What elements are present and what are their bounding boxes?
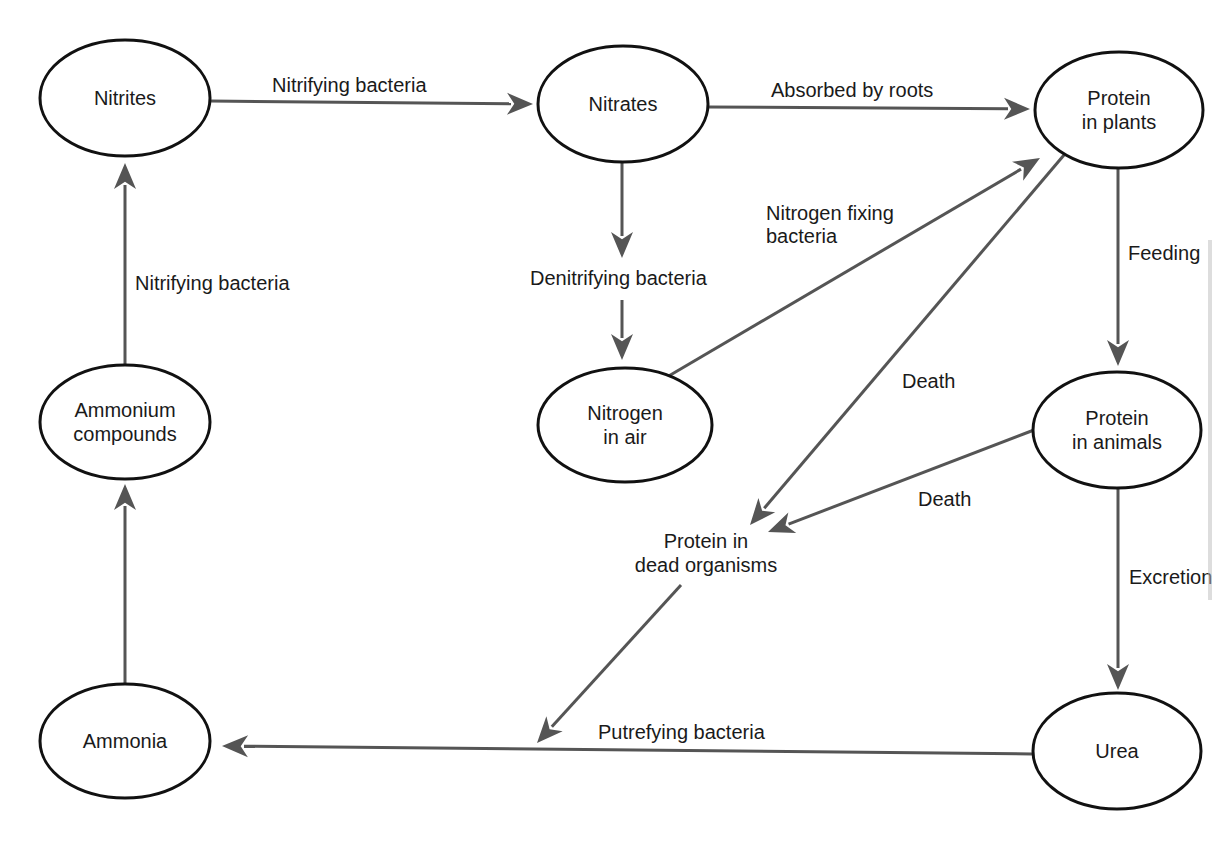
edge-label: Feeding [1128, 242, 1200, 264]
arrow-shaft [244, 746, 1032, 754]
node-nitrites: Nitrites [40, 40, 210, 156]
arrowhead-icon [750, 498, 775, 525]
edge-dead-to-ammonia-path [537, 585, 681, 743]
node-urea: Urea [1033, 693, 1201, 809]
edge-protein-in-animals-to-dead: Death [768, 430, 1034, 533]
edge-ammonia-to-ammonium [114, 484, 136, 685]
node-ellipse [40, 365, 210, 479]
node-label: in plants [1082, 111, 1157, 133]
node-label: in animals [1072, 431, 1162, 453]
edge-urea-to-ammonia: Putrefying bacteria [222, 721, 1032, 757]
edge-label: Death [918, 488, 971, 510]
node-label: Ammonia [83, 730, 168, 752]
edge-label: Nitrifying bacteria [135, 272, 290, 294]
edge-label-line2: bacteria [766, 225, 838, 247]
free-label-line: dead organisms [635, 554, 777, 576]
node-label: Urea [1095, 740, 1139, 762]
node-protein-in-plants: Proteinin plants [1035, 52, 1203, 168]
node-label: Ammonium [74, 399, 175, 421]
edge-ammonium-to-nitrites: Nitrifying bacteria [114, 163, 290, 364]
node-ammonia: Ammonia [40, 684, 210, 798]
arrow-shaft [708, 107, 1008, 109]
edge-nitrogen-in-air-to-protein-in-plants: Nitrogen fixingbacteria [667, 158, 1040, 377]
label-protein-in-dead-organisms: Protein indead organisms [635, 530, 777, 576]
arrow-shaft [210, 101, 511, 104]
node-label: Nitrites [94, 87, 156, 109]
arrow-shaft [552, 585, 681, 727]
node-ammonium-compounds: Ammoniumcompounds [40, 365, 210, 479]
edge-nitrates-to-protein-in-plants: Absorbed by roots [708, 79, 1030, 120]
arrow-shaft [789, 430, 1034, 524]
arrow-shaft [667, 169, 1021, 377]
node-label: Nitrates [589, 93, 658, 115]
edge-label: Nitrogen fixing [766, 202, 894, 224]
labels-layer: Protein indead organisms [635, 530, 777, 576]
page-edge-shadow [1208, 240, 1212, 600]
node-label: Protein [1085, 407, 1148, 429]
node-ellipse [1035, 52, 1203, 168]
node-label: in air [603, 426, 647, 448]
edge-protein-in-animals-to-urea: Excretion [1107, 488, 1212, 690]
edge-label: Death [902, 370, 955, 392]
node-label: compounds [73, 423, 176, 445]
edge-denitrifying-to-nitrogen-in-air: Denitrifying bacteria [530, 267, 708, 360]
node-ellipse [538, 368, 712, 482]
edge-label: Denitrifying bacteria [530, 267, 708, 289]
node-nitrogen-in-air: Nitrogenin air [538, 368, 712, 482]
node-protein-in-animals: Proteinin animals [1033, 372, 1201, 488]
edge-nitrites-to-nitrates: Nitrifying bacteria [210, 74, 533, 115]
node-ellipse [1033, 372, 1201, 488]
nodes-layer: NitritesNitratesProteinin plantsAmmonium… [40, 40, 1203, 809]
edge-label: Nitrifying bacteria [272, 74, 427, 96]
free-label-line: Protein in [664, 530, 749, 552]
edge-label: Absorbed by roots [771, 79, 933, 101]
edge-label: Excretion [1129, 566, 1212, 588]
node-label: Nitrogen [587, 402, 663, 424]
arrowhead-icon [1012, 158, 1040, 181]
node-label: Protein [1087, 87, 1150, 109]
node-nitrates: Nitrates [538, 46, 708, 162]
edge-nitrates-to-denitrifying [611, 162, 633, 258]
edge-protein-in-plants-to-protein-in-animals: Feeding [1107, 168, 1200, 366]
edge-label: Putrefying bacteria [598, 721, 766, 743]
nitrogen-cycle-diagram: Nitrifying bacteriaAbsorbed by rootsDeni… [0, 0, 1212, 844]
